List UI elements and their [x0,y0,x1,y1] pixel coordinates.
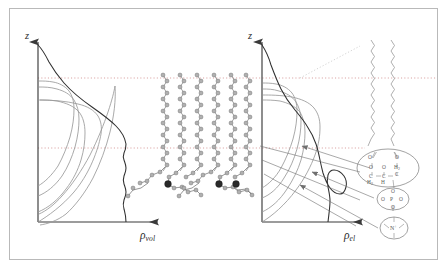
label-h-mid: H [381,180,385,185]
label-phos-left-o: O [381,197,385,202]
label-phos-bottom-o: O [391,205,395,210]
label-phos-right-o: O [399,197,403,202]
left-z-axis-label: z [25,31,29,42]
left-rho-axis-label: ρvol [140,230,155,242]
label-h2-right: H2 [394,165,400,172]
right-rho-axis-label: ρel [344,230,355,242]
nitrogen-charge: + [394,224,397,229]
label-carbonyl-right-o: O [395,155,399,160]
rho-el-subscript: el [350,234,356,243]
figure-root: z z ρvol ρel O O O O C C C H2 H H2 O O P… [0,0,447,270]
label-h2-left: H2 [367,180,373,187]
label-nitrogen: N+ [390,225,397,231]
figure-frame [9,8,438,260]
label-ester-mid-o: O [382,165,386,170]
label-carbon-right: C [395,172,399,177]
right-z-axis-label: z [248,31,252,42]
label-carbonyl-left-o: O [368,155,372,160]
label-phos-p: P [390,197,393,202]
label-ester-left-o: O [369,165,373,170]
h2-right-sub: 2 [398,167,400,171]
h2-left-sub: 2 [371,182,373,186]
label-phos-top-o: O [391,189,395,194]
rho-vol-subscript: vol [146,234,156,243]
